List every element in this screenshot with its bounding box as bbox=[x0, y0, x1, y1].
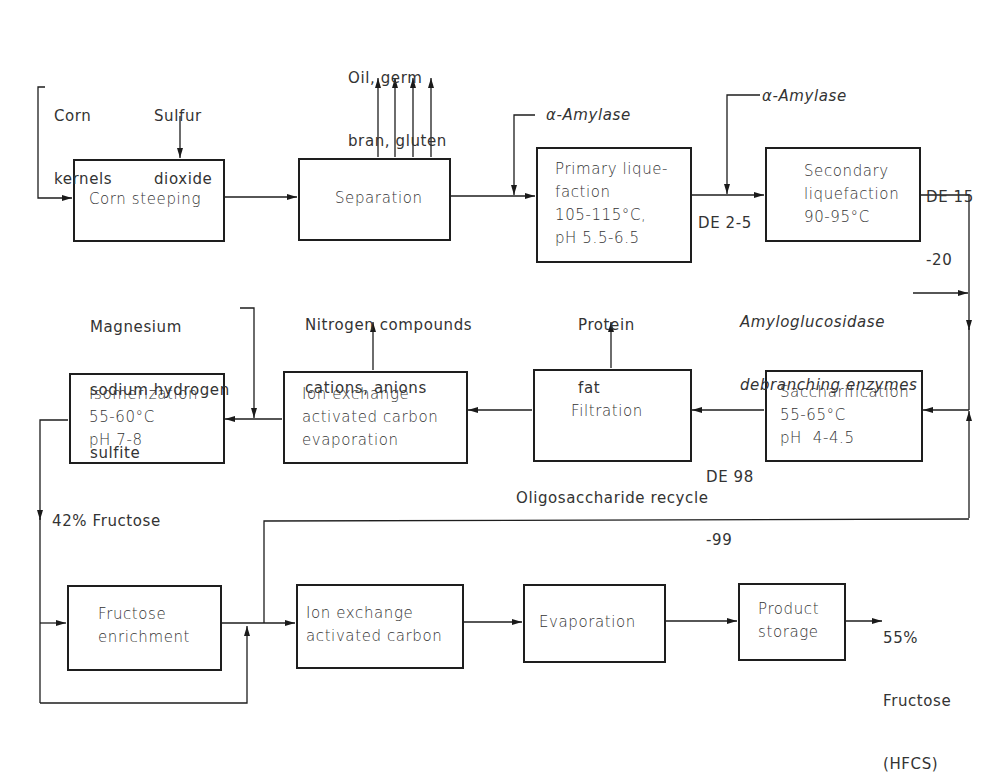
label-protein-fat: Protein fat bbox=[578, 273, 635, 420]
label-alpha-amylase-2: α-Amylase bbox=[762, 86, 847, 107]
label-de-15-20: DE 15 -20 bbox=[926, 145, 974, 292]
node-product-storage: Product storage bbox=[738, 583, 846, 661]
node-fructose-enrichment: Fructose enrichment bbox=[67, 585, 222, 671]
node-label: Evaporation bbox=[539, 612, 636, 633]
node-label-line: Product bbox=[758, 599, 819, 620]
node-label-line: Ion exchange bbox=[306, 603, 413, 624]
node-label-line: pH 4-4.5 bbox=[780, 428, 855, 449]
node-label-line: pH 5.5-6.5 bbox=[555, 228, 640, 249]
node-label-line: Secondary bbox=[804, 161, 889, 182]
node-primary-liquefaction: Primary lique- faction 105-115°C, pH 5.5… bbox=[536, 147, 692, 263]
node-label-line: activated carbon bbox=[306, 626, 442, 647]
label-corn-kernels: Corn kernels bbox=[54, 64, 112, 211]
node-label-line: liquefaction bbox=[804, 184, 899, 205]
node-ion-exchange-carbon: Ion exchange activated carbon bbox=[296, 584, 464, 669]
label-alpha-amylase-1: α-Amylase bbox=[546, 105, 631, 126]
label-de-98-99: DE 98 -99 bbox=[706, 425, 754, 572]
node-label-line: Fructose bbox=[98, 604, 166, 625]
node-label-line: enrichment bbox=[98, 627, 190, 648]
node-secondary-liquefaction: Secondary liquefaction 90-95°C bbox=[765, 147, 921, 242]
label-separation-outputs: Oil, germ bran, gluten bbox=[348, 26, 447, 173]
label-magnesium-sulfite: Magnesium sodium hydrogen sulfite bbox=[90, 275, 230, 485]
node-label-line: Primary lique- bbox=[555, 159, 668, 180]
label-oligosaccharide-recycle: Oligosaccharide recycle bbox=[516, 488, 709, 509]
node-evaporation: Evaporation bbox=[523, 584, 666, 663]
label-42-fructose: 42% Fructose bbox=[52, 511, 161, 532]
node-label-line: storage bbox=[758, 622, 819, 643]
node-label-line: 90-95°C bbox=[804, 207, 870, 228]
label-nitrogen-compounds: Nitrogen compounds cations, anions bbox=[305, 273, 472, 420]
label-hfcs-output: 55% Fructose (HFCS) bbox=[883, 586, 951, 776]
node-label-line: faction bbox=[555, 182, 611, 203]
label-de-2-5: DE 2-5 bbox=[698, 213, 752, 234]
node-label-line: 105-115°C, bbox=[555, 205, 646, 226]
label-sulfur-dioxide: Sulfur dioxide bbox=[154, 64, 212, 211]
label-amyloglucosidase: Amyloglucosidase debranching enzymes bbox=[740, 270, 917, 417]
node-label: Separation bbox=[335, 188, 423, 209]
node-label-line: evaporation bbox=[302, 430, 399, 451]
